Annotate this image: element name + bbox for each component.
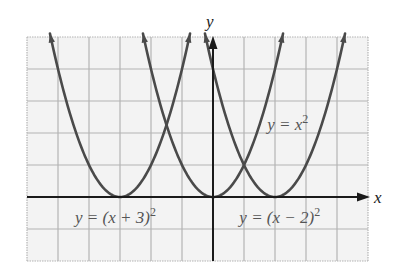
curve-label: y = (x + 3)2	[73, 205, 156, 227]
y-axis-label: y	[204, 12, 214, 31]
x-axis-label: x	[373, 188, 382, 207]
curve-label: y = x2	[265, 112, 308, 134]
parabola-translation-chart: y = (x + 3)2y = x2y = (x − 2)2 x y	[0, 0, 396, 275]
curve-label: y = (x − 2)2	[237, 205, 320, 227]
plot-background	[27, 37, 368, 261]
